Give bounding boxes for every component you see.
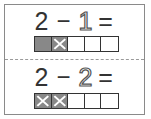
cross-icon [52,37,68,51]
minuend: 2 [33,8,51,34]
equals-sign: = [95,64,117,90]
frame-cell-filled [35,37,52,51]
subtrahend: 1 [77,8,95,34]
equation-1: 2 − 1 = [5,8,144,34]
frame-cell-empty [101,94,118,108]
minuend: 2 [33,64,51,90]
minus-sign: − [51,64,77,90]
frame-cell-empty [68,94,85,108]
counting-frame-2 [34,93,119,109]
cross-icon [52,94,68,108]
frame-cell-empty [85,94,102,108]
subtrahend: 2 [77,64,95,90]
problem-1: 2 − 1 = [5,5,144,60]
frame-cell-crossed [52,94,69,108]
counting-frame-1 [34,36,119,52]
frame-cell-empty [68,37,85,51]
problem-2: 2 − 2 = [5,61,144,116]
cross-icon [35,94,51,108]
minus-sign: − [51,8,77,34]
dashed-divider [5,59,144,60]
subtraction-card: 2 − 1 = 2 − 2 = [4,4,145,115]
frame-cell-crossed [35,94,52,108]
frame-cell-empty [101,37,118,51]
frame-cell-crossed [52,37,69,51]
equals-sign: = [95,8,117,34]
equation-2: 2 − 2 = [5,64,144,90]
frame-cell-empty [85,37,102,51]
